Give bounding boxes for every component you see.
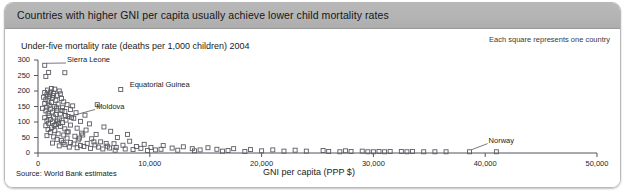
- data-point-marker: [62, 100, 66, 104]
- data-point-marker: [444, 150, 448, 154]
- data-point-marker: [47, 94, 51, 98]
- data-point-marker: [78, 119, 82, 123]
- data-point-marker: [232, 147, 236, 151]
- data-point-marker: [54, 122, 58, 126]
- data-point-marker: [206, 146, 210, 150]
- data-point-marker: [46, 127, 50, 131]
- panel-border: [5, 29, 620, 188]
- x-tick-label: 50,000: [572, 159, 621, 168]
- data-point-marker: [59, 96, 63, 100]
- data-point-marker: [146, 149, 150, 153]
- data-point-marker: [40, 106, 44, 110]
- data-point-marker: [134, 144, 138, 148]
- data-point-marker: [56, 102, 60, 106]
- data-point-marker: [226, 149, 230, 153]
- data-point-marker: [51, 96, 55, 100]
- data-point-marker: [161, 144, 165, 148]
- data-point-marker: [102, 125, 106, 129]
- data-point-marker: [44, 124, 48, 128]
- data-point-marker: [48, 92, 52, 96]
- data-point-marker: [42, 95, 46, 99]
- data-point-marker: [57, 117, 61, 121]
- data-point-marker: [66, 130, 70, 134]
- data-point-marker: [49, 126, 53, 130]
- data-point-marker: [60, 109, 64, 113]
- data-point-marker: [81, 133, 85, 137]
- data-point-marker: [49, 100, 53, 104]
- data-point-marker: [360, 149, 364, 153]
- annotation-label: Equatorial Guinea: [130, 80, 190, 89]
- scatter-svg: [5, 29, 620, 188]
- data-point-marker: [43, 101, 47, 105]
- data-point-marker: [198, 148, 202, 152]
- data-point-marker: [43, 63, 47, 67]
- annotation-label: Sierra Leone: [67, 55, 110, 64]
- data-point-marker: [52, 91, 56, 95]
- data-point-marker: [62, 133, 66, 137]
- data-point-marker: [48, 131, 52, 135]
- data-point-marker: [63, 127, 67, 131]
- data-point-marker: [108, 146, 112, 150]
- x-tick-label: 30,000: [348, 159, 398, 168]
- data-point-marker: [72, 142, 76, 146]
- data-point-marker: [304, 149, 308, 153]
- data-point-marker: [63, 113, 67, 117]
- data-point-marker: [78, 144, 82, 148]
- data-point-marker: [371, 150, 375, 154]
- data-point-marker: [63, 109, 67, 113]
- data-point-marker: [57, 144, 61, 148]
- data-point-marker: [53, 105, 57, 109]
- x-tick-label: 40,000: [460, 159, 510, 168]
- data-point-marker: [77, 136, 81, 140]
- data-point-marker: [54, 106, 58, 110]
- data-point-marker: [71, 104, 75, 108]
- data-point-marker: [51, 110, 55, 114]
- data-point-marker: [112, 142, 116, 146]
- data-point-marker: [72, 116, 76, 120]
- data-point-marker: [383, 150, 387, 154]
- data-point-marker: [65, 136, 69, 140]
- data-point-marker: [55, 108, 59, 112]
- data-point-marker: [343, 149, 347, 153]
- data-point-marker: [125, 132, 129, 136]
- data-point-marker: [58, 112, 62, 116]
- data-point-marker: [468, 150, 472, 154]
- data-point-marker: [349, 149, 353, 153]
- y-tick-label: 200: [4, 86, 30, 95]
- data-point-marker: [215, 147, 219, 151]
- y-tick-label: 50: [4, 133, 30, 142]
- title-bar: Countries with higher GNI per capita usu…: [5, 3, 620, 29]
- data-point-marker: [366, 150, 370, 154]
- y-tick-label: 300: [4, 55, 30, 64]
- data-point-marker: [104, 141, 108, 145]
- data-point-marker: [53, 129, 57, 133]
- data-point-marker: [128, 139, 132, 143]
- data-point-marker: [433, 150, 437, 154]
- chart-card: Countries with higher GNI per capita usu…: [4, 2, 621, 188]
- data-point-marker: [399, 149, 403, 153]
- data-point-marker: [55, 137, 59, 141]
- data-point-marker: [121, 143, 125, 147]
- data-point-marker: [92, 140, 96, 144]
- data-point-marker: [68, 108, 72, 112]
- data-point-marker: [94, 132, 98, 136]
- data-point-marker: [494, 150, 498, 154]
- annotation-label: Moldova: [96, 102, 124, 111]
- data-point-marker: [61, 141, 65, 145]
- data-point-marker: [95, 103, 99, 107]
- data-point-marker: [64, 118, 68, 122]
- data-point-marker: [61, 106, 65, 110]
- data-point-marker: [405, 150, 409, 154]
- data-point-marker: [123, 147, 127, 151]
- data-point-marker: [53, 87, 57, 91]
- data-point-marker: [70, 115, 74, 119]
- data-point-marker: [101, 147, 105, 151]
- y-tick-label: 150: [4, 102, 30, 111]
- data-point-marker: [54, 113, 58, 117]
- data-point-marker: [45, 105, 49, 109]
- data-point-marker: [48, 107, 52, 111]
- data-point-marker: [68, 123, 72, 127]
- data-point-marker: [57, 89, 61, 93]
- data-point-marker: [57, 122, 61, 126]
- data-point-marker: [220, 149, 224, 153]
